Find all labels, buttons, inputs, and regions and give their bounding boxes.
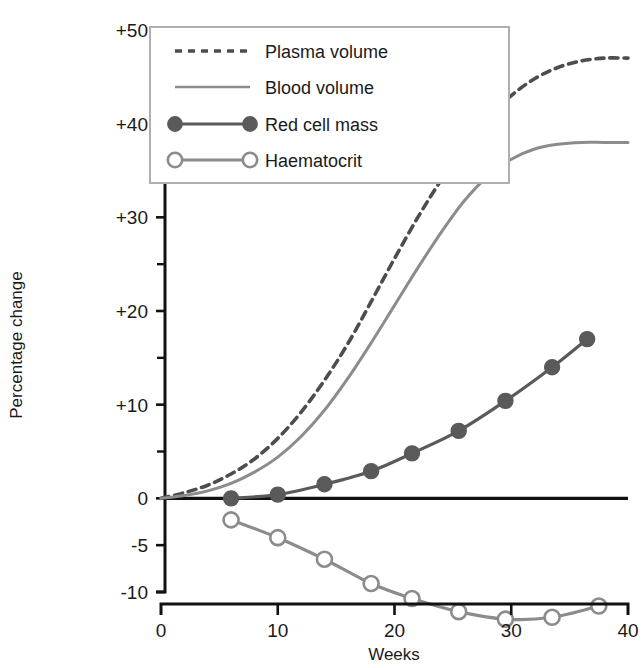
series-line	[231, 339, 587, 498]
y-axis-tick-label: +30	[116, 207, 148, 228]
y-axis-tick-label: +10	[116, 395, 148, 416]
data-point-marker	[317, 552, 332, 567]
y-axis-title: Percentage change	[7, 271, 26, 418]
x-axis-tick-label: 20	[384, 620, 405, 641]
data-point-marker	[451, 423, 466, 438]
legend-item-label: Plasma volume	[265, 42, 388, 62]
data-point-marker	[545, 360, 560, 375]
data-point-marker	[270, 530, 285, 545]
x-axis-tick-label: 40	[617, 620, 638, 641]
data-point-marker	[317, 477, 332, 492]
data-point-marker	[580, 332, 595, 347]
y-axis-tick-label: +20	[116, 301, 148, 322]
x-axis-tick-label: 0	[156, 620, 167, 641]
data-point-marker	[364, 464, 379, 479]
y-axis-tick-label: -10	[121, 582, 148, 603]
series-red-cell-mass	[224, 332, 595, 506]
y-axis-tick-labels: +50+40+30+20+100-5-10	[116, 20, 148, 603]
data-point-marker	[405, 446, 420, 461]
data-point-marker	[545, 610, 560, 625]
data-point-marker	[224, 512, 239, 527]
legend-filled-circle-icon	[243, 117, 257, 131]
series-blood-volume	[161, 142, 628, 498]
data-point-marker	[224, 491, 239, 506]
chart-legend: Plasma volumeBlood volumeRed cell massHa…	[150, 27, 509, 183]
y-axis-tick-label: +40	[116, 114, 148, 135]
data-point-marker	[498, 393, 513, 408]
legend-filled-circle-icon	[168, 117, 182, 131]
y-axis-tick-label: +50	[116, 20, 148, 41]
data-point-marker	[591, 599, 606, 614]
legend-open-circle-icon	[168, 153, 182, 167]
x-axis-tick-label: 10	[267, 620, 288, 641]
data-point-marker	[364, 576, 379, 591]
data-point-marker	[270, 487, 285, 502]
x-axis-title: Weeks	[368, 645, 420, 664]
legend-open-circle-icon	[243, 153, 257, 167]
legend-item-label: Blood volume	[265, 78, 374, 98]
legend-item-label: Red cell mass	[265, 115, 378, 135]
x-axis-tick-label: 30	[501, 620, 522, 641]
data-point-marker	[451, 604, 466, 619]
y-axis-tick-label: -5	[131, 535, 148, 556]
y-axis-tick-label: 0	[137, 488, 148, 509]
series-haematocrit	[224, 512, 607, 626]
legend-item-label: Haematocrit	[265, 151, 362, 171]
series-line	[161, 142, 628, 498]
x-axis-tick-labels: 010203040	[156, 620, 639, 641]
percentage-change-line-chart: +50+40+30+20+100-5-10 Percentage change …	[0, 0, 643, 668]
chart-figure: +50+40+30+20+100-5-10 Percentage change …	[0, 0, 643, 668]
